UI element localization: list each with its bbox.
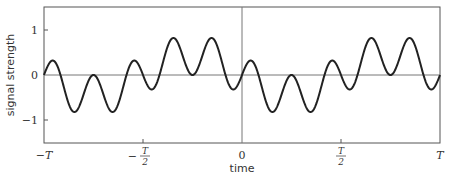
x-tick-label-0: 0 — [239, 149, 246, 162]
y-tick-label-1: 1 — [31, 24, 38, 37]
svg-text:T: T — [142, 146, 149, 156]
svg-text:2: 2 — [141, 157, 148, 167]
svg-text:T: T — [338, 146, 345, 156]
x-tick-label-half-T: T 2 — [336, 146, 346, 167]
y-tick-label-0: 0 — [31, 69, 38, 82]
x-axis-label: time — [230, 162, 255, 175]
svg-text:2: 2 — [337, 157, 344, 167]
svg-text:−: − — [128, 150, 137, 163]
signal-chart: 1 0 −1 −T − T 2 0 T 2 T time signal stre… — [0, 0, 466, 176]
y-axis-label: signal strength — [4, 34, 17, 116]
y-tick-label-minus1: −1 — [22, 114, 38, 127]
x-tick-label-T: T — [436, 149, 445, 162]
x-tick-label-minus-T: −T — [36, 149, 54, 162]
x-tick-label-minus-half-T: − T 2 — [128, 146, 150, 167]
